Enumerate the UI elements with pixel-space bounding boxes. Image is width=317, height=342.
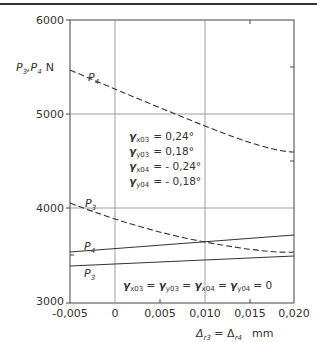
xtick-0.015: 0,015 (234, 307, 266, 320)
xtick--0.005: -0,005 (52, 307, 87, 320)
annotation-3: γx04= - 0,24° (129, 160, 201, 174)
label-P4-dashed: P4 (88, 71, 99, 86)
annotation-2: γy03= 0,18° (129, 145, 194, 159)
y-axis-label: P3,P4N (16, 61, 54, 76)
chart: 6000 5000 4000 3000 -0,005 0 0,005 0,010… (0, 0, 317, 342)
curve-P3-dashed (70, 203, 294, 252)
label-P3-dashed: P3 (85, 197, 96, 212)
annotation-block: γx03= 0,24° γy03= 0,18° γx04= - 0,24° γy… (129, 130, 201, 189)
annotation-1: γx03= 0,24° (129, 130, 194, 144)
ytick-6000: 6000 (36, 14, 64, 27)
x-axis-label: Δr3 = Δr4mm (195, 327, 273, 342)
label-P3-solid: P3 (84, 267, 95, 282)
ytick-4000: 4000 (36, 202, 64, 215)
xtick-0: 0 (112, 307, 119, 320)
annotation-4: γy04= - 0,18° (129, 175, 201, 189)
annotation-zero: γx03 = γy03 = γx04 = γy04= 0 (123, 279, 272, 293)
xtick-0.010: 0,010 (189, 307, 221, 320)
label-P4-solid: P4 (84, 240, 95, 255)
xtick-0.005: 0,005 (144, 307, 176, 320)
curve-P3-solid (70, 256, 294, 266)
xtick-0.020: 0,020 (278, 307, 310, 320)
ytick-5000: 5000 (36, 108, 64, 121)
